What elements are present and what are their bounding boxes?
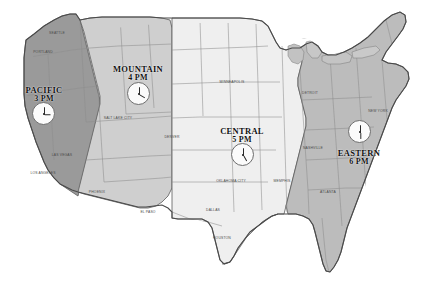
clock-eastern <box>348 120 371 143</box>
zone-region-eastern <box>286 12 409 272</box>
zone-time-eastern: 6 PM <box>319 158 399 166</box>
zone-label-eastern: EASTERN 6 PM <box>319 149 399 166</box>
clock-mountain <box>127 82 150 105</box>
clock-central <box>231 143 254 166</box>
time-zone-map: PACIFIC 3 PM MOUNTAIN 4 PM CENTRAL 5 PM … <box>0 0 447 297</box>
clock-pacific <box>32 102 55 125</box>
zone-label-central: CENTRAL 5 PM <box>202 127 282 144</box>
zone-label-pacific: PACIFIC 3 PM <box>4 86 84 103</box>
zone-label-mountain: MOUNTAIN 4 PM <box>98 65 178 82</box>
